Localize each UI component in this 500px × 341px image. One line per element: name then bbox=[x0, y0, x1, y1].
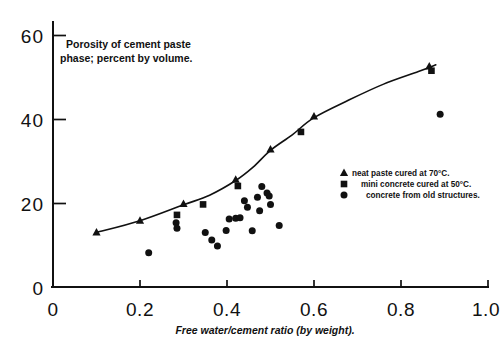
plot-title-line-1: Porosity of cement paste bbox=[66, 38, 191, 50]
x-tick-label-0.6: 0.6 bbox=[300, 299, 328, 320]
data-point-circle-7 bbox=[226, 216, 233, 223]
data-point-circle-17 bbox=[266, 193, 273, 200]
scatter-plot-canvas: 60 40 20 0 0 0.2 0.4 0.6 0.8 1.0 Porosit… bbox=[0, 0, 500, 341]
y-tick-label-40: 40 bbox=[21, 110, 44, 131]
trend-curve bbox=[97, 65, 436, 233]
data-point-circle-0 bbox=[145, 249, 152, 256]
data-point-circle-3 bbox=[202, 229, 209, 236]
data-point-square-1 bbox=[200, 201, 207, 208]
data-point-circle-13 bbox=[254, 194, 261, 201]
x-tick-label-0.8: 0.8 bbox=[387, 299, 415, 320]
chart-figure: 60 40 20 0 0 0.2 0.4 0.6 0.8 1.0 Porosit… bbox=[0, 0, 500, 341]
legend-marker-square bbox=[341, 181, 348, 188]
legend-marker-triangle bbox=[340, 169, 348, 176]
legend-label-old-structures: concrete from old structures. bbox=[366, 191, 480, 200]
data-point-circle-19 bbox=[276, 222, 283, 229]
data-point-circle-6 bbox=[223, 227, 230, 234]
legend-marker-circle bbox=[341, 192, 348, 199]
data-point-square-3 bbox=[298, 129, 305, 136]
plot-title-line-2: phase; percent by volume. bbox=[60, 52, 193, 64]
y-tick-label-20: 20 bbox=[21, 194, 44, 215]
x-tick-label-0.4: 0.4 bbox=[213, 299, 241, 320]
x-tick-label-1.0: 1.0 bbox=[472, 299, 500, 320]
x-axis-caption: Free water/cement ratio (by weight). bbox=[175, 324, 354, 336]
data-point-square-4 bbox=[428, 67, 435, 74]
x-tick-label-0: 0 bbox=[47, 299, 58, 320]
data-point-circle-18 bbox=[267, 201, 274, 208]
data-point-circle-9 bbox=[237, 214, 244, 221]
legend-label-neat-paste: neat paste cured at 70°C. bbox=[352, 169, 449, 178]
y-tick-label-60: 60 bbox=[21, 26, 44, 47]
data-point-circle-10 bbox=[241, 197, 248, 204]
trend-curve-group bbox=[97, 65, 436, 233]
data-point-circle-2 bbox=[173, 225, 180, 232]
x-axis-ticks bbox=[53, 280, 488, 287]
data-point-circle-4 bbox=[208, 237, 215, 244]
data-point-circle-5 bbox=[214, 242, 221, 249]
data-point-square-0 bbox=[174, 212, 181, 219]
x-tick-label-0.2: 0.2 bbox=[126, 299, 154, 320]
data-point-square-2 bbox=[235, 183, 242, 190]
data-point-circle-11 bbox=[244, 204, 251, 211]
data-point-circle-20 bbox=[437, 111, 444, 118]
data-point-circle-14 bbox=[256, 207, 263, 214]
chart-legend: neat paste cured at 70°C. mini concrete … bbox=[340, 169, 480, 200]
y-tick-label-0: 0 bbox=[32, 278, 44, 299]
legend-label-mini-concrete: mini concrete cured at 50°C. bbox=[361, 180, 471, 189]
data-point-circle-12 bbox=[249, 227, 256, 234]
data-point-circle-15 bbox=[258, 183, 265, 190]
data-markers-layer bbox=[92, 62, 443, 256]
